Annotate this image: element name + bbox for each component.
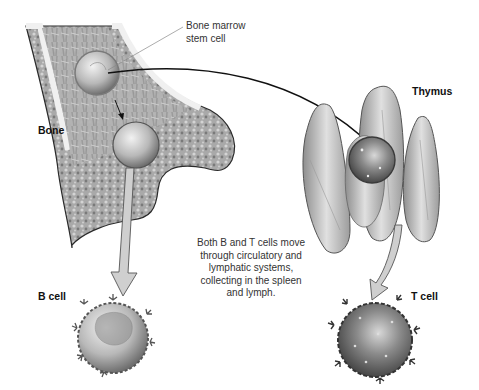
migration-caption: Both B and T cells move through circulat…	[182, 237, 320, 300]
t-cell-label: T cell	[411, 290, 438, 302]
thymus-t-cell-precursor	[349, 137, 395, 183]
caption-line-5: and lymph.	[182, 287, 320, 300]
thymus-label: Thymus	[412, 85, 452, 97]
lymphocyte-precursor-cell	[113, 122, 159, 168]
stem-cell-label: Bone marrow stem cell	[186, 20, 266, 45]
caption-line-3: lymphatic systems,	[182, 262, 320, 275]
bone-label: Bone	[38, 124, 64, 136]
stem-cell-label-line1: Bone marrow	[186, 20, 266, 33]
immune-cell-diagram: Bone marrow stem cell Bone Thymus B cell…	[0, 0, 479, 390]
caption-line-2: through circulatory and	[182, 250, 320, 263]
t-cell-illustration	[328, 295, 420, 384]
b-cell-label: B cell	[38, 290, 66, 302]
caption-line-1: Both B and T cells move	[182, 237, 320, 250]
stem-cell-label-line2: stem cell	[186, 33, 266, 46]
caption-line-4: collecting in the spleen	[182, 275, 320, 288]
b-cell-illustration	[72, 294, 155, 377]
